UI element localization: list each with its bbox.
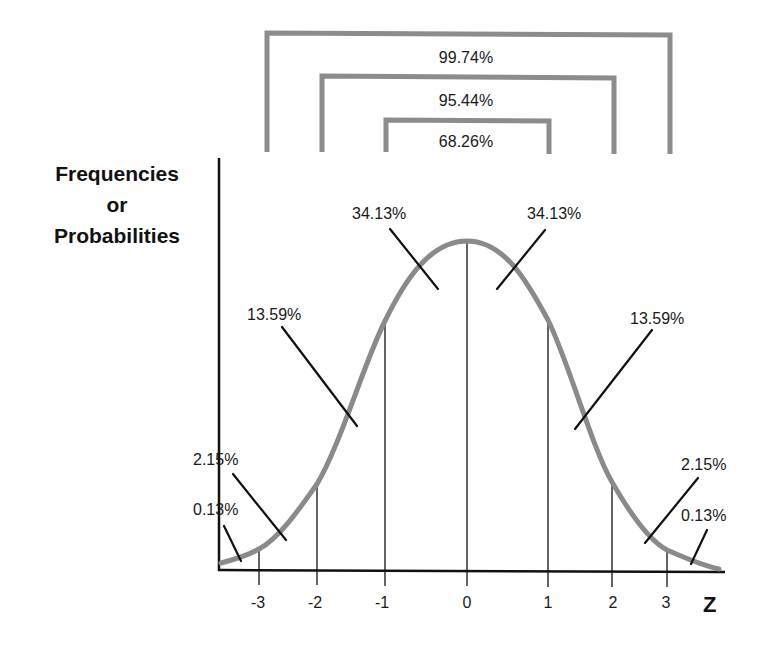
region-label-left-13-59: 13.59% bbox=[247, 307, 301, 323]
region-label-left-2-15: 2.15% bbox=[193, 452, 238, 468]
y-axis-label-line3: Probabilities bbox=[22, 220, 212, 251]
y-axis-label-line1: Frequencies bbox=[22, 158, 212, 189]
leader-left-0-13 bbox=[224, 526, 241, 561]
region-label-right-2-15: 2.15% bbox=[681, 457, 726, 473]
region-label-right-0-13: 0.13% bbox=[681, 508, 726, 524]
x-tick-2: 2 bbox=[609, 595, 618, 611]
region-label-right-13-59: 13.59% bbox=[630, 311, 684, 327]
bracket-label-99-74: 99.74% bbox=[439, 50, 493, 66]
x-tick-3: 3 bbox=[662, 595, 671, 611]
x-axis-label: Z bbox=[703, 594, 716, 616]
leader-right-0-13 bbox=[691, 530, 707, 564]
bracket-label-95-44: 95.44% bbox=[439, 93, 493, 109]
region-label-right-34-13: 34.13% bbox=[527, 206, 581, 222]
x-tick-0: 0 bbox=[463, 595, 472, 611]
bracket-label-68-26: 68.26% bbox=[439, 134, 493, 150]
region-label-left-0-13: 0.13% bbox=[193, 502, 238, 518]
x-tick-minus-2: -2 bbox=[308, 595, 322, 611]
x-axis bbox=[218, 570, 725, 572]
axes bbox=[218, 158, 725, 572]
y-axis-label: Frequencies or Probabilities bbox=[22, 158, 212, 251]
leader-left-34-13 bbox=[390, 229, 438, 289]
sd-lines bbox=[259, 241, 667, 587]
leader-left-2-15 bbox=[233, 474, 286, 540]
x-tick-minus-1: -1 bbox=[375, 595, 389, 611]
bell-curve bbox=[221, 241, 719, 569]
x-tick-1: 1 bbox=[544, 595, 553, 611]
x-tick-minus-3: -3 bbox=[251, 595, 265, 611]
leader-left-13-59 bbox=[282, 327, 357, 426]
region-label-left-34-13: 34.13% bbox=[352, 206, 406, 222]
y-axis-label-line2: or bbox=[22, 189, 212, 220]
leader-right-13-59 bbox=[575, 330, 652, 429]
